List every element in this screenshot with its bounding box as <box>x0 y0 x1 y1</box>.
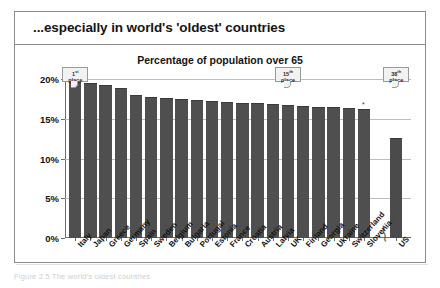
x-tick-mark <box>396 238 397 241</box>
bar <box>251 103 263 238</box>
bar <box>312 107 324 238</box>
bar-series: *~~ <box>66 79 411 238</box>
slide-frame: ...especially in world's 'oldest' countr… <box>14 11 426 263</box>
chart-title: Percentage of population over 65 <box>15 54 425 66</box>
y-tick-mark <box>61 119 65 120</box>
bar <box>130 95 142 238</box>
bar <box>206 101 218 238</box>
y-tick-label: 0% <box>45 233 59 244</box>
callout-rank: 38th <box>384 69 408 77</box>
bar <box>267 104 279 238</box>
y-tick-label: 10% <box>40 153 59 164</box>
callout-rank: 15th <box>276 69 300 77</box>
bar <box>84 83 96 238</box>
screenshot-root: ...especially in world's 'oldest' countr… <box>0 0 440 288</box>
y-tick-mark <box>61 238 65 239</box>
y-tick-mark <box>61 159 65 160</box>
y-tick-label: 5% <box>45 193 59 204</box>
bar <box>221 102 233 238</box>
plot-area: 0%5%10%15%20% *~~ ItalyJapanGreeceGerman… <box>65 79 411 238</box>
bar <box>236 103 248 238</box>
y-tick-label: 15% <box>40 113 59 124</box>
bar <box>99 85 111 238</box>
bar <box>358 109 370 238</box>
chart-area: Percentage of population over 65 0%5%10%… <box>15 45 425 262</box>
y-tick-mark <box>61 198 65 199</box>
callout-italy: 1stplace <box>62 67 88 82</box>
data-point-marker: * <box>362 101 365 108</box>
frame-shadow <box>16 264 428 265</box>
callout-uk: 15thplace <box>275 67 301 82</box>
callout-us: 38thplace <box>383 67 409 82</box>
bar <box>191 100 203 238</box>
bar <box>343 108 355 238</box>
bar <box>160 98 172 238</box>
page-title: ...especially in world's 'oldest' countr… <box>33 20 285 35</box>
bar <box>327 107 339 238</box>
bar <box>115 88 127 238</box>
x-tick-mark <box>75 238 76 241</box>
bar <box>282 105 294 238</box>
callout-rank: 1st <box>63 69 87 77</box>
bar <box>69 82 81 238</box>
y-tick-label: 20% <box>40 74 59 85</box>
slide-title-bar: ...especially in world's 'oldest' countr… <box>15 12 425 45</box>
bar <box>175 99 187 238</box>
bar <box>145 97 157 238</box>
figure-caption: Figure 2.5 The world's oldest countries <box>14 272 150 281</box>
bar <box>297 106 309 238</box>
